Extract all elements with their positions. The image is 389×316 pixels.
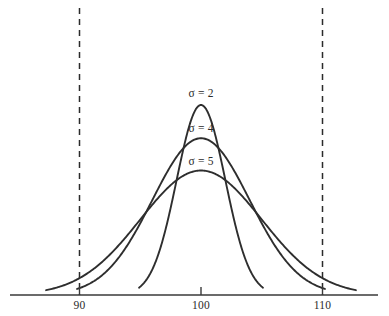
x-axis-tick-label-90: 90	[73, 299, 85, 311]
x-axis-tick-labels: 90 100 110	[73, 299, 331, 311]
series-labels-group: σ = 2 σ = 4 σ = 5	[188, 87, 213, 166]
series-label-sigma-4: σ = 4	[188, 122, 213, 134]
series-label-sigma-2: σ = 2	[188, 87, 213, 99]
x-axis-tick-label-110: 110	[314, 299, 332, 311]
curve-sigma-5	[46, 171, 356, 291]
normal-distribution-chart: 90 100 110 σ = 2 σ = 4 σ = 5	[0, 0, 389, 316]
chart-canvas: 90 100 110 σ = 2 σ = 4 σ = 5	[0, 0, 389, 316]
x-axis-group	[10, 287, 378, 295]
reference-lines-group	[80, 8, 323, 295]
series-label-sigma-5: σ = 5	[188, 155, 213, 167]
x-axis-tick-label-100: 100	[192, 299, 210, 311]
